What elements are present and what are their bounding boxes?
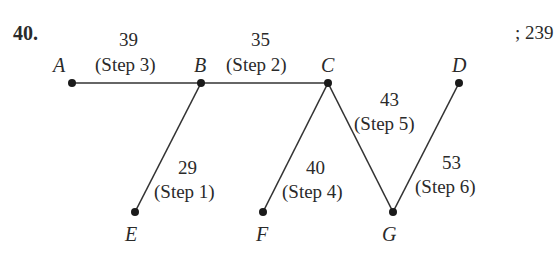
edge-step-b-e: (Step 1) bbox=[154, 182, 215, 202]
node-label-d: D bbox=[452, 55, 466, 75]
node-label-b: B bbox=[194, 55, 206, 75]
edge-weight-a-b: 39 bbox=[119, 30, 138, 50]
edge-weight-c-g: 43 bbox=[380, 90, 399, 110]
edge-weight-g-d: 53 bbox=[442, 153, 461, 173]
node-e bbox=[131, 208, 139, 216]
node-c bbox=[324, 79, 332, 87]
edge-step-c-f: (Step 4) bbox=[282, 182, 343, 202]
edge-weight-b-e: 29 bbox=[178, 158, 197, 178]
node-label-f: F bbox=[256, 224, 268, 244]
node-label-e: E bbox=[125, 224, 137, 244]
node-d bbox=[455, 79, 463, 87]
node-b bbox=[197, 79, 205, 87]
answer-total: ; 239 bbox=[515, 23, 554, 43]
problem-number: 40. bbox=[13, 23, 38, 43]
edge-step-c-g: (Step 5) bbox=[354, 114, 415, 134]
node-label-g: G bbox=[382, 224, 396, 244]
edge-step-g-d: (Step 6) bbox=[415, 177, 476, 197]
edge-weight-c-f: 40 bbox=[306, 158, 325, 178]
node-label-a: A bbox=[53, 55, 65, 75]
node-label-c: C bbox=[321, 55, 334, 75]
edge-weight-b-c: 35 bbox=[251, 30, 270, 50]
node-f bbox=[259, 208, 267, 216]
spanning-tree-graph bbox=[0, 0, 559, 268]
edge-step-b-c: (Step 2) bbox=[226, 55, 287, 75]
node-g bbox=[389, 208, 397, 216]
node-a bbox=[68, 79, 76, 87]
edge-step-a-b: (Step 3) bbox=[95, 55, 156, 75]
